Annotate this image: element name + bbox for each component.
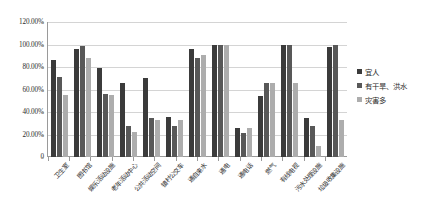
x-axis-label: 卫生室 bbox=[51, 161, 70, 180]
bar bbox=[264, 83, 269, 157]
bar-group bbox=[301, 22, 324, 157]
legend-label: 灾害多 bbox=[365, 94, 386, 105]
x-axis-label: 通电话 bbox=[235, 161, 254, 180]
bar bbox=[86, 58, 91, 157]
bar bbox=[97, 68, 102, 157]
bar bbox=[316, 146, 321, 157]
legend-item[interactable]: 宜人 bbox=[357, 66, 407, 77]
bar bbox=[74, 49, 79, 157]
bar bbox=[293, 83, 298, 157]
bar-group bbox=[186, 22, 209, 157]
bar-group bbox=[117, 22, 140, 157]
bar bbox=[80, 46, 85, 157]
bar bbox=[189, 49, 194, 157]
y-axis-tick-mark bbox=[41, 67, 44, 68]
bar bbox=[57, 77, 62, 157]
y-axis-tick-mark bbox=[41, 112, 44, 113]
bar bbox=[258, 96, 263, 157]
bar bbox=[51, 60, 56, 157]
bar-group bbox=[140, 22, 163, 157]
bar bbox=[132, 132, 137, 157]
x-axis-label: 镇村公交车 bbox=[158, 161, 185, 189]
bar-group bbox=[278, 22, 301, 157]
y-axis-tick-mark bbox=[41, 157, 44, 158]
x-axis-label: 通电 bbox=[216, 161, 231, 176]
bar-group bbox=[232, 22, 255, 157]
bar bbox=[281, 45, 286, 158]
y-axis-tick-mark bbox=[41, 22, 44, 23]
x-axis-label: 燃气 bbox=[262, 161, 277, 176]
bar bbox=[270, 83, 275, 157]
y-axis: 020.00%40.00%60.00%80.00%100.00%120.00% bbox=[0, 22, 44, 157]
bar bbox=[166, 117, 171, 158]
y-axis-tick-mark bbox=[41, 90, 44, 91]
bar bbox=[109, 95, 114, 157]
bar bbox=[195, 58, 200, 157]
bar-group bbox=[255, 22, 278, 157]
bar bbox=[126, 126, 131, 158]
legend-item[interactable]: 有干旱、洪水 bbox=[357, 80, 407, 91]
y-axis-tick-mark bbox=[41, 45, 44, 46]
legend-swatch-icon bbox=[357, 97, 362, 102]
bar bbox=[235, 128, 240, 157]
bar bbox=[103, 94, 108, 157]
bar-group bbox=[163, 22, 186, 157]
bar bbox=[304, 118, 309, 157]
legend-label: 宜人 bbox=[365, 66, 379, 77]
y-axis-tick-mark bbox=[41, 135, 44, 136]
bar-chart: 020.00%40.00%60.00%80.00%100.00%120.00% … bbox=[0, 0, 430, 214]
bar bbox=[218, 45, 223, 158]
bar bbox=[333, 45, 338, 158]
bar-groups bbox=[48, 22, 347, 157]
bar bbox=[178, 120, 183, 157]
x-axis-label: 图书馆 bbox=[74, 161, 93, 180]
bar bbox=[149, 118, 154, 157]
chart-legend: 宜人有干旱、洪水灾害多 bbox=[357, 66, 407, 105]
bar bbox=[287, 45, 292, 158]
bar-group bbox=[71, 22, 94, 157]
bar bbox=[327, 47, 332, 157]
bar-group bbox=[209, 22, 232, 157]
bar-group bbox=[48, 22, 71, 157]
bar bbox=[212, 45, 217, 158]
legend-swatch-icon bbox=[357, 69, 362, 74]
bar bbox=[63, 95, 68, 157]
bar bbox=[339, 120, 344, 157]
x-axis-label: 通自来水 bbox=[185, 161, 208, 185]
bar bbox=[120, 83, 125, 157]
legend-swatch-icon bbox=[357, 83, 362, 88]
bar bbox=[241, 133, 246, 157]
legend-item[interactable]: 灾害多 bbox=[357, 94, 407, 105]
x-axis-labels: 卫生室图书馆娱乐活动设施老年活动中心公共活动空间镇村公交车通自来水通电通电话燃气… bbox=[48, 161, 347, 213]
bar bbox=[201, 55, 206, 157]
bar-group bbox=[324, 22, 347, 157]
bar bbox=[310, 126, 315, 158]
bar bbox=[155, 120, 160, 157]
bar bbox=[224, 45, 229, 158]
bar bbox=[172, 126, 177, 158]
bar bbox=[143, 78, 148, 157]
legend-label: 有干旱、洪水 bbox=[365, 80, 407, 91]
bar bbox=[247, 128, 252, 157]
bar-group bbox=[94, 22, 117, 157]
